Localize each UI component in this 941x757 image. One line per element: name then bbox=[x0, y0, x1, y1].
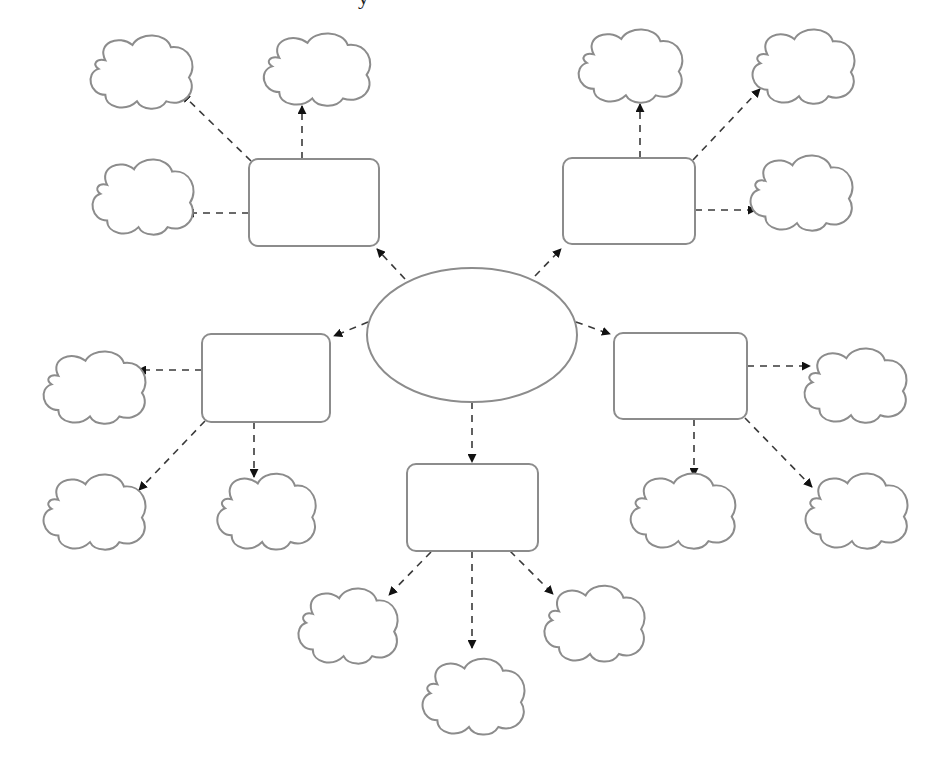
cloud-mr-1-cloud-shape[interactable] bbox=[805, 349, 907, 423]
cloud-b-2-cloud-shape[interactable] bbox=[423, 659, 525, 735]
arrow-center-to-box-middle-left bbox=[334, 322, 368, 336]
box-bottom[interactable] bbox=[407, 464, 538, 551]
arrow-center-to-box-top-left bbox=[377, 249, 405, 279]
cloud-b-3-cloud-shape[interactable] bbox=[544, 586, 644, 662]
arrow-box-top-left-to-cloud-tl-1 bbox=[182, 94, 251, 161]
cloud-mr-2-cloud-shape[interactable] bbox=[631, 474, 736, 549]
arrow-box-top-right-to-cloud-tr-2 bbox=[693, 89, 760, 160]
box-top-left[interactable] bbox=[249, 159, 379, 246]
cloud-b-1-cloud-shape[interactable] bbox=[298, 589, 397, 664]
arrow-center-to-box-top-right bbox=[535, 249, 561, 276]
cloud-tr-3-cloud-shape[interactable] bbox=[751, 156, 853, 231]
box-middle-left[interactable] bbox=[202, 334, 330, 422]
cloud-tl-1-cloud-shape[interactable] bbox=[91, 36, 193, 109]
arrow-box-bottom-to-cloud-b-1 bbox=[389, 552, 431, 595]
arrow-box-middle-right-to-cloud-mr-3 bbox=[745, 418, 812, 487]
cloud-ml-2-cloud-shape[interactable] bbox=[44, 475, 146, 550]
cloud-tl-2-cloud-shape[interactable] bbox=[264, 33, 370, 105]
arrow-box-bottom-to-cloud-b-3 bbox=[510, 551, 553, 594]
arrow-box-middle-left-to-cloud-ml-2 bbox=[139, 421, 205, 490]
box-top-right[interactable] bbox=[563, 158, 695, 244]
arrow-center-to-box-middle-right bbox=[576, 322, 610, 334]
node-layer bbox=[44, 30, 908, 735]
box-middle-right[interactable] bbox=[614, 333, 747, 419]
spider-diagram bbox=[0, 0, 941, 757]
cloud-mr-3-cloud-shape[interactable] bbox=[806, 474, 908, 549]
cloud-ml-3-cloud-shape[interactable] bbox=[217, 474, 315, 550]
cloud-ml-1-cloud-shape[interactable] bbox=[44, 351, 146, 423]
cloud-tr-2-cloud-shape[interactable] bbox=[753, 30, 855, 104]
cloud-tl-3-cloud-shape[interactable] bbox=[92, 160, 193, 235]
cloud-tr-1-cloud-shape[interactable] bbox=[579, 30, 683, 103]
central-topic-ellipse[interactable] bbox=[367, 268, 577, 402]
